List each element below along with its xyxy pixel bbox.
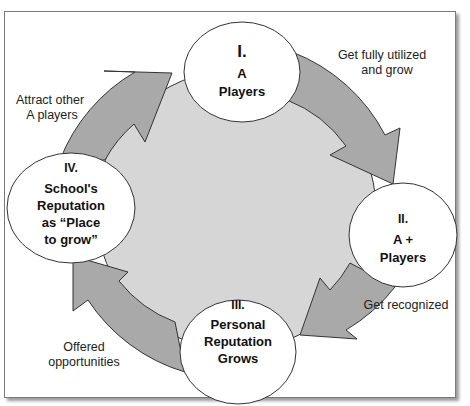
edge-label-i-ii-line-2: and grow [361,63,413,77]
node-iv: IV. School's Reputation as “Place to gro… [7,153,135,263]
node-iv-line-3: as “Place [42,215,101,230]
node-iii-line-3: Grows [218,351,258,366]
node-i-line-2: Players [219,84,265,99]
node-iv-numeral: IV. [64,161,78,175]
edge-label-iii-iv-line-1: Offered [63,340,105,354]
node-ii-line-2: Players [380,250,426,265]
node-ii-numeral: II. [398,212,408,226]
edge-label-iv-i-line-2: A players [26,108,77,122]
node-i-line-1: A [237,66,247,81]
node-ii-line-1: A + [393,232,414,247]
node-iv-line-2: Reputation [37,198,105,213]
node-iv-line-1: School's [44,181,98,196]
cycle-diagram: I. A Players II. A + Players III. Person… [0,0,470,406]
node-i: I. A Players [184,22,300,122]
node-ii: II. A + Players [349,183,457,287]
node-i-numeral: I. [237,42,246,61]
node-iii-line-1: Personal [211,317,266,332]
node-iv-line-4: to grow” [44,232,97,247]
edge-label-iii-iv-line-2: opportunities [48,355,120,369]
edge-label-ii-iii: Get recognized [364,298,449,312]
node-iii-numeral: III. [231,298,244,312]
edge-label-iv-i-line-1: Attract other [16,93,84,107]
node-iii-line-2: Reputation [204,334,272,349]
edge-label-i-ii-line-1: Get fully utilized [338,48,426,62]
